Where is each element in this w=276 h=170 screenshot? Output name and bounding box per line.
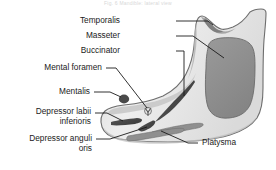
label-temporalis: Temporalis bbox=[48, 16, 120, 26]
label-buccinator: Buccinator bbox=[48, 46, 120, 56]
label-mental-foramen: Mental foramen bbox=[6, 63, 102, 73]
anatomy-figure: Fig. 6 Mandible: lateral view bbox=[0, 0, 276, 170]
label-platysma: Platysma bbox=[202, 138, 274, 148]
leader-mentalis bbox=[94, 92, 121, 97]
mentalis-mark bbox=[119, 95, 129, 104]
label-mentalis: Mentalis bbox=[6, 87, 90, 97]
label-masseter: Masseter bbox=[48, 31, 120, 41]
label-depressor-labii-inferioris: Depressor labii inferioris bbox=[2, 107, 91, 126]
label-depressor-anguli-oris: Depressor anguli oris bbox=[0, 134, 92, 153]
